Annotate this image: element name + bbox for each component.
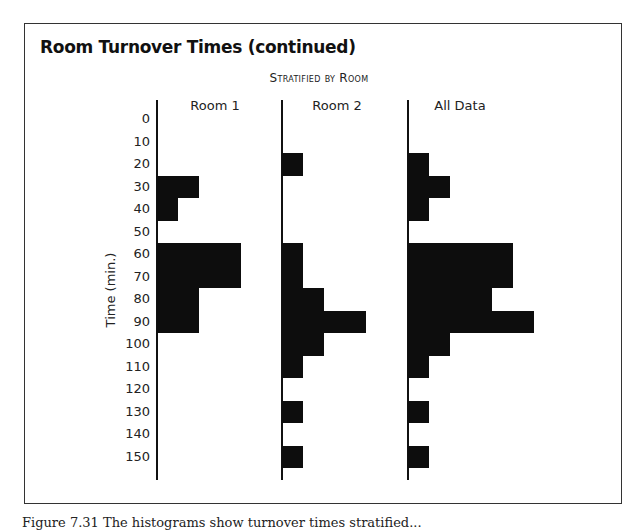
histogram-bar xyxy=(157,288,199,311)
histogram-bar xyxy=(157,198,178,221)
histogram-bar xyxy=(408,401,429,424)
figure-subtitle: Stratified by Room xyxy=(0,71,638,85)
histogram-bar xyxy=(157,243,241,266)
figure-caption: Figure 7.31 The histograms show turnover… xyxy=(22,515,422,530)
histogram-bar xyxy=(408,243,513,266)
y-tick-label: 130 xyxy=(100,401,150,424)
y-tick-label: 70 xyxy=(100,266,150,289)
histogram-bar xyxy=(408,446,429,469)
figure-title: Room Turnover Times (continued) xyxy=(40,37,356,57)
y-tick-label: 90 xyxy=(100,311,150,334)
histogram-bar xyxy=(408,198,429,221)
y-tick-label: 40 xyxy=(100,198,150,221)
y-tick-label: 50 xyxy=(100,221,150,244)
y-tick-label: 80 xyxy=(100,288,150,311)
histogram-bar xyxy=(282,401,303,424)
histogram-bar xyxy=(282,356,303,379)
histogram-bar xyxy=(408,266,513,289)
histogram-bar xyxy=(408,288,492,311)
y-tick-label: 60 xyxy=(100,243,150,266)
histogram-bar xyxy=(157,266,241,289)
histogram-bar xyxy=(408,311,534,334)
histogram-bar xyxy=(282,153,303,176)
y-tick-label: 30 xyxy=(100,176,150,199)
histogram-bar xyxy=(282,243,303,266)
histogram-bar xyxy=(282,446,303,469)
histogram-bar xyxy=(157,176,199,199)
y-tick-label: 100 xyxy=(100,333,150,356)
histogram-bar xyxy=(408,356,429,379)
panel-header-all-data: All Data xyxy=(400,98,520,113)
y-tick-label: 150 xyxy=(100,446,150,469)
y-tick-label: 110 xyxy=(100,356,150,379)
histogram-bar xyxy=(282,266,303,289)
y-tick-label: 140 xyxy=(100,423,150,446)
histogram-bar xyxy=(282,288,324,311)
histogram-bar xyxy=(408,153,429,176)
panel-header-room-1: Room 1 xyxy=(155,98,275,113)
y-tick-label: 120 xyxy=(100,378,150,401)
histogram-bar xyxy=(157,311,199,334)
histogram-bar xyxy=(282,333,324,356)
histogram-bar xyxy=(282,311,366,334)
panel-header-room-2: Room 2 xyxy=(277,98,397,113)
histogram-bar xyxy=(408,176,450,199)
histogram-bar xyxy=(408,333,450,356)
y-tick-label: 20 xyxy=(100,153,150,176)
y-tick-label: 10 xyxy=(100,131,150,154)
y-tick-label: 0 xyxy=(100,108,150,131)
